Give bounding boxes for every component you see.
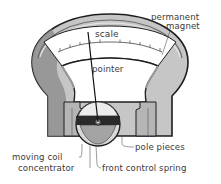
- leader-moving-coil: [79, 144, 82, 157]
- leader-pole-pieces: [122, 136, 134, 147]
- label-pole-pieces: pole pieces: [135, 142, 185, 152]
- label-front-control-spring: front control spring: [102, 163, 186, 173]
- label-concentrator: concentrator: [18, 163, 75, 173]
- label-permanent-magnet-line2: magnet: [166, 21, 200, 31]
- leader-front-control-spring: [96, 146, 101, 168]
- label-scale: scale: [95, 29, 119, 39]
- moving-coil-meter-diagram: permanent magnet scale pointer pole piec…: [0, 0, 221, 184]
- moving-coil-assembly: [76, 102, 120, 146]
- label-moving-coil: moving coil: [12, 152, 63, 162]
- label-pointer: pointer: [92, 64, 124, 74]
